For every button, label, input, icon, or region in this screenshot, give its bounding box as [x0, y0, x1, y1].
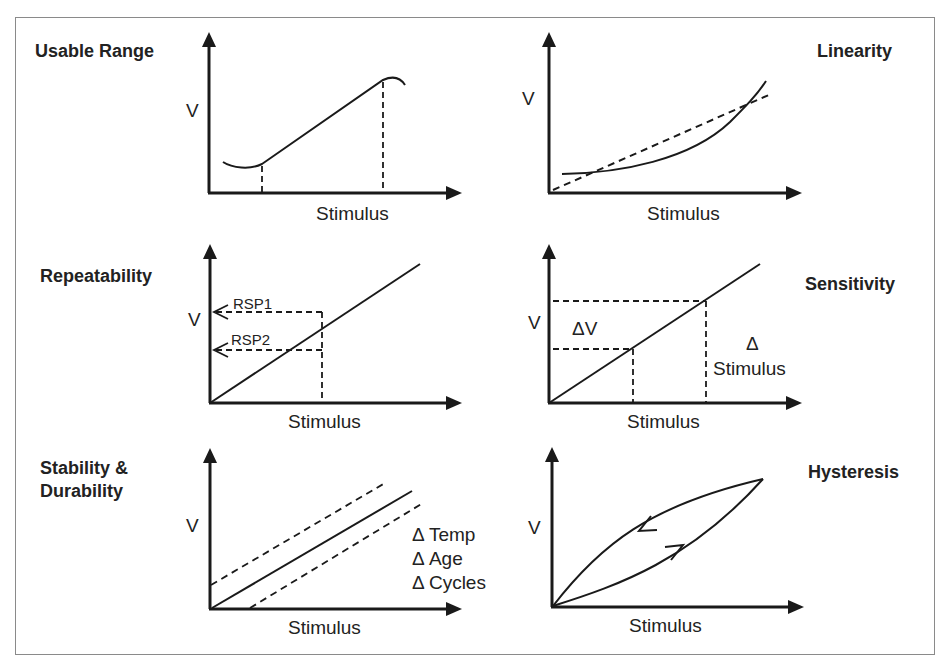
rsp-guides — [214, 305, 322, 403]
x-axis-label: Stimulus — [288, 411, 361, 433]
panel-linearity — [542, 32, 802, 200]
y-axis-label: V — [188, 309, 201, 331]
delta-stimulus-label: Stimulus — [713, 358, 786, 380]
y-axis-arrow-icon — [542, 244, 556, 259]
x-axis-label: Stimulus — [627, 411, 700, 433]
panel-hysteresis — [545, 447, 804, 614]
axes — [542, 32, 802, 200]
nominal-response-line — [212, 491, 412, 608]
actual-response-curve — [562, 81, 766, 174]
x-axis-arrow-icon — [786, 186, 802, 200]
x-axis-label: Stimulus — [647, 203, 720, 225]
delta-v-label: ΔV — [572, 318, 597, 340]
delta-guides — [553, 301, 706, 403]
x-axis-label: Stimulus — [288, 617, 361, 639]
axes — [203, 244, 462, 410]
panel-title-stability-line1: Stability & — [40, 457, 128, 479]
x-axis-arrow-icon — [446, 396, 462, 410]
y-axis-arrow-icon — [202, 32, 216, 47]
y-axis-arrow-icon — [542, 32, 556, 47]
panel-title-linearity: Linearity — [817, 40, 892, 62]
x-axis-label: Stimulus — [316, 203, 389, 225]
panel-title-stability-line2: Durability — [40, 480, 123, 502]
panel-title-repeatability: Repeatability — [40, 265, 152, 287]
y-axis-label: V — [186, 515, 199, 537]
y-axis-label: V — [186, 100, 199, 122]
lower-drift-line — [250, 503, 423, 608]
x-axis-arrow-icon — [446, 602, 462, 616]
delta-symbol-label: Δ — [746, 333, 759, 355]
x-axis-arrow-icon — [446, 186, 462, 200]
delta-temp-label: Δ Temp — [412, 524, 475, 546]
panel-usable-range — [202, 32, 462, 200]
rsp2-label: RSP2 — [231, 332, 270, 348]
y-axis-arrow-icon — [545, 447, 559, 462]
y-axis-arrow-icon — [203, 448, 217, 463]
response-curve — [223, 78, 405, 168]
diagram-canvas — [0, 0, 949, 667]
axes — [545, 447, 804, 614]
x-axis-arrow-icon — [786, 396, 802, 410]
panel-title-sensitivity: Sensitivity — [805, 273, 895, 295]
y-axis-arrow-icon — [203, 244, 217, 259]
panel-title-hysteresis: Hysteresis — [808, 461, 899, 483]
y-axis-label: V — [528, 517, 541, 539]
y-axis-label: V — [522, 88, 535, 110]
ideal-linear-response — [553, 94, 771, 190]
delta-cycles-label: Δ Cycles — [412, 572, 486, 594]
y-axis-label: V — [528, 312, 541, 334]
upper-drift-line — [211, 483, 385, 585]
panel-repeatability — [203, 244, 462, 410]
delta-age-label: Δ Age — [412, 548, 463, 570]
rsp1-label: RSP1 — [233, 296, 272, 312]
loading-curve — [553, 479, 763, 606]
panel-title-usable-range: Usable Range — [35, 40, 154, 62]
unloading-curve — [553, 479, 763, 606]
x-axis-arrow-icon — [788, 600, 804, 614]
x-axis-label: Stimulus — [629, 615, 702, 637]
